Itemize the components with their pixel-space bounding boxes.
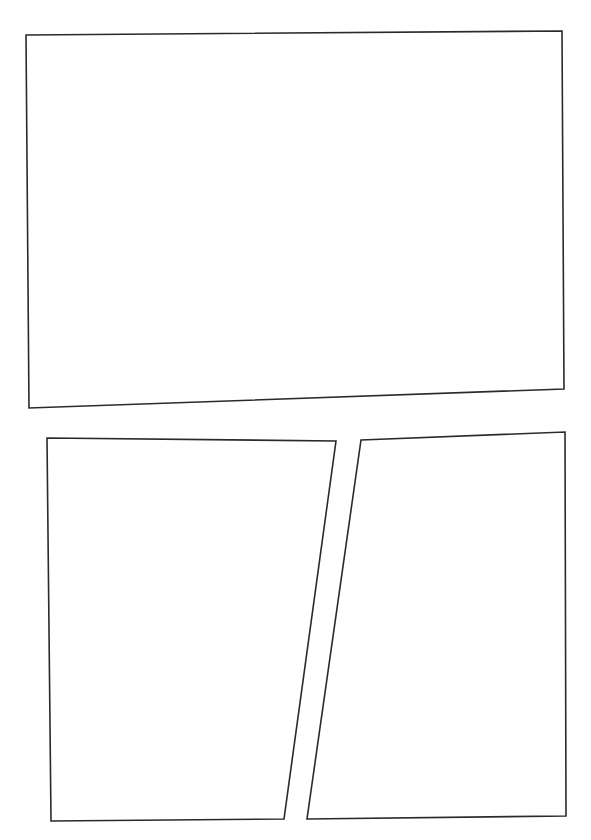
panel-top-wide[interactable] — [26, 31, 564, 408]
panel-bottom-left[interactable] — [47, 438, 336, 821]
panel-bottom-right[interactable] — [307, 432, 566, 819]
panel-layout — [0, 0, 591, 840]
comic-page — [0, 0, 591, 840]
